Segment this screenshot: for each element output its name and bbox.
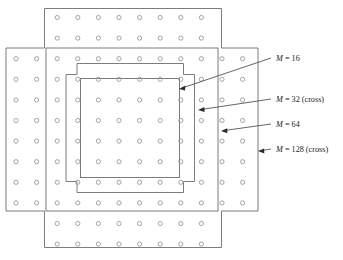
constellation-point: [96, 221, 100, 225]
constellation-point: [35, 201, 39, 205]
constellation-point: [138, 180, 142, 184]
constellation-point: [220, 160, 224, 164]
constellation-point: [158, 242, 162, 246]
constellation-point: [55, 118, 59, 122]
constellation-point: [199, 57, 203, 61]
constellation-point: [220, 180, 224, 184]
constellation-point: [179, 180, 183, 184]
constellation-points: [14, 15, 245, 246]
constellation-point: [220, 118, 224, 122]
constellation-point: [199, 15, 203, 19]
constellation-point: [14, 160, 18, 164]
label-m16: M = 16: [275, 54, 300, 63]
constellation-point: [199, 36, 203, 40]
constellation-point: [14, 118, 18, 122]
constellation-point: [76, 36, 80, 40]
constellation-point: [96, 15, 100, 19]
constellation-point: [14, 139, 18, 143]
constellation-point: [35, 180, 39, 184]
constellation-point: [199, 180, 203, 184]
label-m32: M = 32 (cross): [275, 95, 324, 104]
constellation-point: [241, 118, 245, 122]
boundary-m64-square: [46, 48, 218, 211]
boundary-m16-square: [81, 79, 180, 178]
constellation-point: [241, 139, 245, 143]
constellation-point: [179, 201, 183, 205]
constellation-point: [35, 118, 39, 122]
constellation-point: [138, 57, 142, 61]
constellation-point: [138, 118, 142, 122]
constellation-point: [96, 57, 100, 61]
constellation-point: [158, 139, 162, 143]
constellation-point: [179, 221, 183, 225]
arrow-m64: [221, 124, 271, 133]
constellation-point: [199, 118, 203, 122]
constellation-point: [55, 57, 59, 61]
constellation-point: [138, 242, 142, 246]
boundary-m32-cross: [66, 64, 195, 193]
constellation-point: [158, 57, 162, 61]
constellation-point: [96, 36, 100, 40]
constellation-point: [76, 57, 80, 61]
constellation-point: [117, 36, 121, 40]
constellation-point: [55, 15, 59, 19]
constellation-point: [117, 180, 121, 184]
constellation-point: [199, 221, 203, 225]
constellation-point: [138, 77, 142, 81]
constellation-point: [96, 201, 100, 205]
constellation-point: [76, 180, 80, 184]
constellation-point: [241, 57, 245, 61]
constellation-point: [76, 221, 80, 225]
constellation-point: [220, 98, 224, 102]
constellation-point: [158, 15, 162, 19]
arrow-m32: [198, 99, 271, 112]
constellation-point: [241, 180, 245, 184]
constellation-point: [14, 180, 18, 184]
figure-canvas: M = 16 M = 32 (cross) M = 64 M = 128 (cr…: [0, 0, 343, 260]
label-m128-value: = 128 (cross): [283, 145, 329, 154]
constellation-point: [55, 139, 59, 143]
constellation-point: [55, 180, 59, 184]
constellation-point: [55, 98, 59, 102]
constellation-point: [117, 201, 121, 205]
constellation-point: [241, 98, 245, 102]
constellation-point: [199, 160, 203, 164]
constellation-point: [14, 201, 18, 205]
constellation-point: [138, 98, 142, 102]
constellation-point: [76, 139, 80, 143]
constellation-point: [76, 118, 80, 122]
constellation-point: [55, 242, 59, 246]
constellation-point: [241, 201, 245, 205]
constellation-point: [76, 98, 80, 102]
constellation-point: [220, 201, 224, 205]
constellation-point: [96, 98, 100, 102]
constellation-point: [55, 201, 59, 205]
constellation-point: [35, 160, 39, 164]
constellation-point: [199, 201, 203, 205]
constellation-figure: M = 16 M = 32 (cross) M = 64 M = 128 (cr…: [0, 0, 343, 260]
label-m128: M = 128 (cross): [275, 145, 328, 154]
constellation-point: [241, 160, 245, 164]
constellation-point: [96, 77, 100, 81]
constellation-point: [76, 77, 80, 81]
constellation-point: [158, 180, 162, 184]
constellation-point: [55, 221, 59, 225]
constellation-point: [158, 118, 162, 122]
constellation-point: [117, 118, 121, 122]
label-m64: M = 64: [275, 120, 300, 129]
constellation-point: [158, 221, 162, 225]
constellation-point: [14, 57, 18, 61]
constellation-point: [14, 77, 18, 81]
constellation-point: [35, 139, 39, 143]
constellation-point: [35, 57, 39, 61]
constellation-point: [220, 77, 224, 81]
constellation-point: [138, 160, 142, 164]
constellation-point: [96, 139, 100, 143]
constellation-point: [55, 77, 59, 81]
constellation-point: [14, 98, 18, 102]
constellation-point: [35, 98, 39, 102]
constellation-point: [158, 77, 162, 81]
constellation-point: [199, 242, 203, 246]
constellation-point: [138, 201, 142, 205]
constellation-point: [117, 221, 121, 225]
